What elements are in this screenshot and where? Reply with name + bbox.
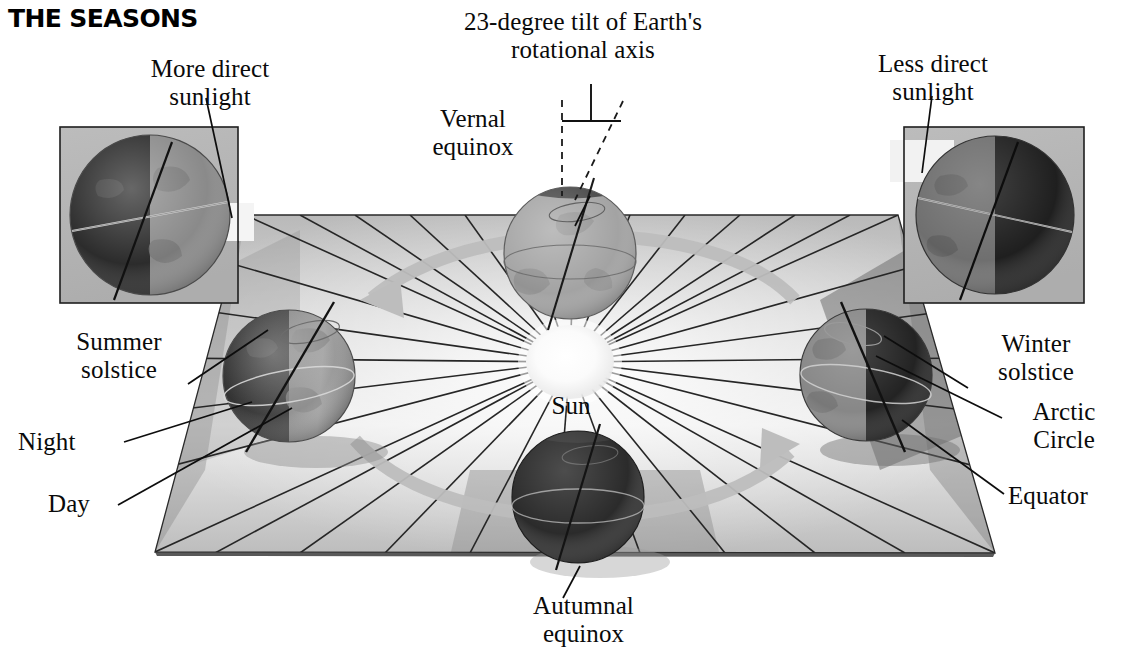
label-equator: Equator [1008,482,1088,510]
label-axis-tilt: 23-degree tilt of Earth's rotational axi… [418,8,748,64]
label-vernal-equinox: Vernal equinox [398,105,548,161]
inset-less-direct-sunlight [890,127,1084,303]
inset-more-direct-sunlight [60,127,254,303]
label-arctic-circle: Arctic Circle [1004,398,1124,454]
seasons-diagram: THE SEASONS More direct sunlight Less di… [0,0,1146,653]
label-less-direct-sunlight: Less direct sunlight [843,50,1023,106]
label-autumnal-equinox: Autumnal equinox [496,592,671,648]
label-winter-solstice: Winter solstice [956,330,1116,386]
label-summer-solstice: Summer solstice [36,328,202,384]
label-day: Day [48,490,90,518]
label-more-direct-sunlight: More direct sunlight [120,55,300,111]
page-title: THE SEASONS [8,4,198,33]
label-sun: Sun [530,392,612,420]
label-night: Night [18,428,75,456]
